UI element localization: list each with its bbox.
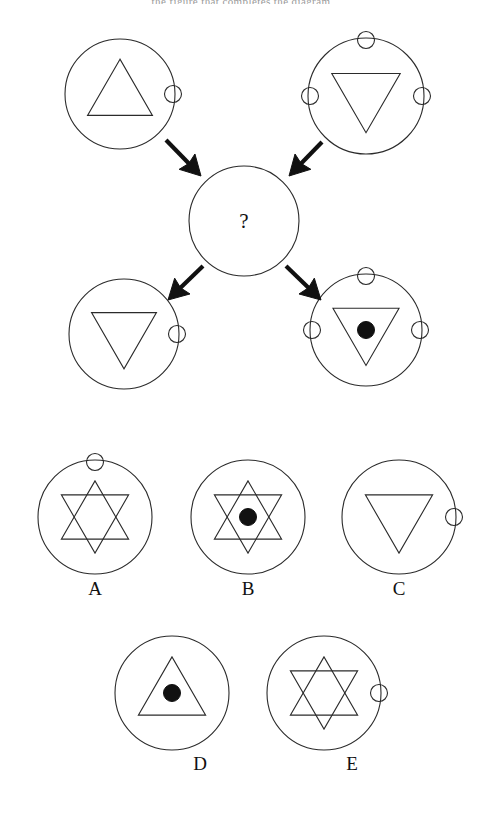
option-e-outer-circle xyxy=(267,636,381,750)
arrow-top-left xyxy=(166,140,201,176)
puzzle-canvas: ? xyxy=(0,0,482,820)
option-a-star-up-triangle xyxy=(61,481,128,539)
matrix-cell-bottom-right-small-circle-top xyxy=(358,268,375,285)
option-c-small-circle-right xyxy=(446,509,463,526)
option-c-outer-circle xyxy=(342,460,456,574)
option-d xyxy=(115,636,229,750)
option-label-e: E xyxy=(332,753,372,775)
option-e-star xyxy=(290,657,357,729)
option-label-c: C xyxy=(379,578,419,600)
option-e-star-up-triangle xyxy=(290,657,357,715)
option-c xyxy=(342,460,463,574)
matrix-cell-top-right-small-circle-top xyxy=(358,32,375,49)
option-label-d: D xyxy=(180,753,220,775)
matrix-cell-top-left xyxy=(65,39,182,149)
arrow-top-right xyxy=(289,142,322,176)
matrix-cell-bottom-right-center-dot xyxy=(358,322,375,339)
matrix-cell-bottom-left xyxy=(69,279,186,389)
arrow-bottom-right xyxy=(286,266,321,300)
option-a xyxy=(38,454,152,575)
matrix-cell-bottom-right xyxy=(304,268,429,387)
option-label-b: B xyxy=(228,578,268,600)
arrow-bottom-left xyxy=(168,266,203,300)
matrix-cell-top-right-outer-circle xyxy=(308,38,424,154)
option-a-star xyxy=(61,481,128,553)
matrix-cell-top-right-small-circle-right xyxy=(414,88,431,105)
puzzle-page: the figure that completes the diagram ? … xyxy=(0,0,482,820)
matrix-cell-top-right-triangle-down xyxy=(332,73,400,132)
arrow-top-left-shaft xyxy=(166,140,190,165)
matrix-cell-bottom-right-small-circle-left xyxy=(304,322,321,339)
matrix-cell-bottom-right-small-circle-right xyxy=(412,322,429,339)
option-label-a: A xyxy=(75,578,115,600)
option-e xyxy=(267,636,388,750)
option-a-small-circle-top xyxy=(87,454,104,471)
option-a-outer-circle xyxy=(38,460,152,574)
matrix-cell-bottom-left-small-circle-right xyxy=(169,326,186,343)
arrow-bottom-left-shaft xyxy=(179,266,203,289)
option-c-triangle-down xyxy=(365,495,432,553)
matrix-cell-top-left-small-circle-right xyxy=(165,86,182,103)
option-e-star-down-triangle xyxy=(290,671,357,729)
option-b xyxy=(191,460,305,574)
center-question-mark: ? xyxy=(239,209,248,233)
option-d-center-dot xyxy=(164,685,181,702)
matrix-cell-top-left-triangle-up xyxy=(88,59,153,115)
matrix-cell-top-right-small-circle-left xyxy=(302,88,319,105)
arrow-bottom-right-shaft xyxy=(286,266,310,289)
option-a-star-down-triangle xyxy=(61,495,128,553)
option-b-center-dot xyxy=(240,509,257,526)
matrix-cell-top-right xyxy=(302,32,431,155)
matrix-cell-top-left-outer-circle xyxy=(65,39,175,149)
option-e-small-circle-right xyxy=(371,685,388,702)
matrix-cell-bottom-left-triangle-down xyxy=(92,313,157,369)
arrow-top-right-shaft xyxy=(300,142,322,165)
matrix-cell-bottom-left-outer-circle xyxy=(69,279,179,389)
center-unknown: ? xyxy=(189,166,299,276)
